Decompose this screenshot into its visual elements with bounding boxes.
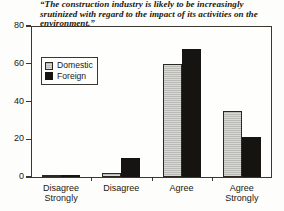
bar-chart-figure: “The construction industry is likely to … xyxy=(0,0,284,211)
chart-title: “The construction industry is likely to … xyxy=(40,0,282,29)
y-axis-label: 20 xyxy=(0,134,24,143)
y-axis-label: 80 xyxy=(0,21,24,30)
bar-foreign xyxy=(121,158,140,177)
legend-swatch-foreign xyxy=(45,72,53,80)
legend-swatch-domestic xyxy=(45,62,53,70)
bar-foreign xyxy=(61,175,80,177)
y-axis-label: 40 xyxy=(0,97,24,106)
bar-group xyxy=(102,26,140,177)
legend-item-foreign: Foreign xyxy=(45,71,93,82)
legend-label-domestic: Domestic xyxy=(57,61,93,70)
bar-group xyxy=(163,26,201,177)
legend-item-domestic: Domestic xyxy=(45,61,93,72)
y-axis-label: 0 xyxy=(0,172,24,181)
bar-domestic xyxy=(102,173,121,177)
bar-group xyxy=(223,26,261,177)
bar-foreign xyxy=(182,49,201,177)
bar-foreign xyxy=(242,137,261,177)
x-axis-label-line: Strongly xyxy=(24,193,98,203)
bar-domestic xyxy=(42,175,61,177)
x-axis-label-line: Agree xyxy=(205,183,279,193)
x-axis-label-line: Strongly xyxy=(205,193,279,203)
x-axis-label: AgreeStrongly xyxy=(205,183,279,203)
legend-label-foreign: Foreign xyxy=(57,72,86,81)
chart-legend: Domestic Foreign xyxy=(41,57,98,85)
bar-domestic xyxy=(163,64,182,177)
x-axis-tick xyxy=(91,177,92,181)
bar-domestic xyxy=(223,111,242,177)
x-axis-tick xyxy=(212,177,213,181)
bars-layer xyxy=(31,26,272,177)
y-axis-label: 60 xyxy=(0,59,24,68)
x-axis-tick xyxy=(152,177,153,181)
bar-group xyxy=(42,26,80,177)
